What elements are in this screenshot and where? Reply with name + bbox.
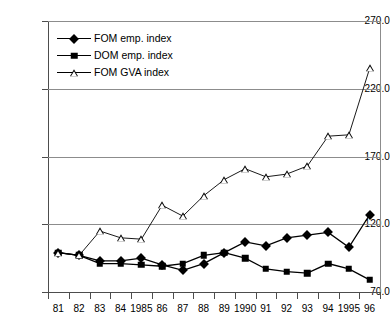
triangle-marker-icon <box>54 249 62 256</box>
triangle-marker-inner <box>55 251 61 256</box>
triangle-marker-icon <box>262 173 270 180</box>
triangle-marker-inner <box>97 229 103 234</box>
square-marker-icon <box>117 260 124 267</box>
chart-legend: FOM emp. indexDOM emp. indexFOM GVA inde… <box>57 30 189 81</box>
triangle-marker-icon <box>220 176 228 183</box>
triangle-marker-icon <box>200 192 208 199</box>
triangle-marker-icon <box>345 131 353 138</box>
square-marker-icon <box>71 52 78 59</box>
diamond-marker-icon <box>282 233 292 243</box>
square-marker-icon <box>325 260 332 267</box>
triangle-marker-icon <box>75 252 83 259</box>
diamond-marker-icon <box>365 210 375 220</box>
triangle-marker-icon <box>137 235 145 242</box>
triangle-marker-inner <box>242 167 248 172</box>
diamond-marker-icon <box>323 227 333 237</box>
square-marker-icon <box>97 260 104 267</box>
diamond-marker-icon <box>261 241 271 251</box>
legend-label: FOM GVA index <box>94 67 169 78</box>
triangle-marker-inner <box>138 237 144 242</box>
diamond-marker-icon <box>199 259 209 269</box>
legend-label: DOM emp. index <box>94 50 173 61</box>
diamond-marker-icon <box>240 237 250 247</box>
triangle-marker-icon <box>303 162 311 169</box>
triangle-marker-inner <box>263 175 269 180</box>
triangle-marker-inner <box>118 236 124 241</box>
triangle-marker-icon <box>366 65 374 72</box>
triangle-marker-icon <box>324 132 332 139</box>
triangle-marker-icon <box>179 212 187 219</box>
triangle-marker-inner <box>180 214 186 219</box>
triangle-marker-inner <box>325 134 331 139</box>
square-marker-icon <box>242 255 249 262</box>
square-marker-icon <box>263 266 270 273</box>
diamond-marker-icon <box>69 34 79 44</box>
legend-sample <box>57 50 91 62</box>
triangle-marker-inner <box>367 67 373 72</box>
triangle-marker-inner <box>76 254 82 259</box>
legend-sample <box>57 33 91 45</box>
triangle-marker-inner <box>221 178 227 183</box>
triangle-marker-icon <box>158 201 166 208</box>
square-marker-icon <box>221 249 228 256</box>
diamond-marker-icon <box>344 242 354 252</box>
square-marker-icon <box>180 260 187 267</box>
legend-label: FOM emp. index <box>94 33 172 44</box>
triangle-marker-icon <box>241 165 249 172</box>
square-marker-icon <box>304 270 311 277</box>
triangle-marker-inner <box>284 172 290 177</box>
square-marker-icon <box>283 268 290 275</box>
square-marker-icon <box>346 266 353 273</box>
square-marker-icon <box>138 262 145 269</box>
legend-sample <box>57 67 91 79</box>
triangle-marker-icon <box>117 234 125 241</box>
triangle-marker-icon <box>283 170 291 177</box>
triangle-marker-icon <box>70 69 78 76</box>
triangle-marker-inner <box>304 164 310 169</box>
chart-figure: 70.0120.0170.0220.0270.0 818283841985868… <box>0 0 390 327</box>
triangle-marker-inner <box>159 203 165 208</box>
square-marker-icon <box>366 277 373 284</box>
diamond-marker-icon <box>302 230 312 240</box>
legend-item: FOM GVA index <box>57 64 189 81</box>
triangle-marker-icon <box>96 227 104 234</box>
square-marker-icon <box>200 252 207 259</box>
legend-item: DOM emp. index <box>57 47 189 64</box>
diamond-marker-icon <box>178 265 188 275</box>
triangle-marker-inner <box>71 71 77 76</box>
square-marker-icon <box>159 263 166 270</box>
triangle-marker-inner <box>346 133 352 138</box>
triangle-marker-inner <box>201 194 207 199</box>
legend-item: FOM emp. index <box>57 30 189 47</box>
